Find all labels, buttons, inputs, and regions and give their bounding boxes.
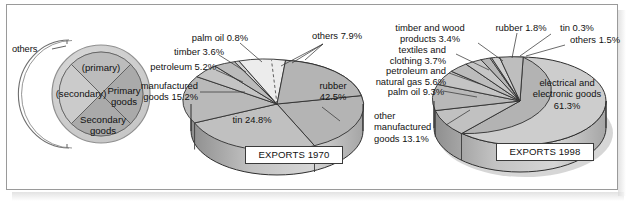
key-primary-outer-label: (primary) xyxy=(66,62,136,73)
label-1970-others: others 7.9% xyxy=(300,30,374,41)
label-1998-electrical: electrical and electronic goods 61.3% xyxy=(522,77,612,111)
caption-exports-1998: EXPORTS 1998 xyxy=(496,143,594,161)
label-1998-rubber: rubber 1.8% xyxy=(487,22,555,33)
exports-figure: others (primary) (secondary) Primary goo… xyxy=(0,0,634,217)
label-1998-timber: timber and wood products 3.4% xyxy=(382,22,478,45)
label-1998-textiles: textiles and clothing 3.7% xyxy=(378,44,446,67)
key-others-label: others xyxy=(12,44,37,55)
label-1998-petroleum: petroleum and natural gas 5.6% xyxy=(364,65,446,88)
label-1998-others: others 1.5% xyxy=(562,34,628,45)
label-1970-tin: tin 24.8% xyxy=(219,114,285,125)
label-1998-palm-oil: palm oil 9.3% xyxy=(372,86,444,97)
key-secondary-inner-label-line1: Secondary xyxy=(70,114,136,125)
label-1970-palm-oil: palm oil 0.8% xyxy=(166,32,248,43)
caption-exports-1970: EXPORTS 1970 xyxy=(245,146,343,164)
label-1970-manufactured: manufactured goods 15.2% xyxy=(120,80,198,103)
key-secondary-inner-label-line2: goods xyxy=(70,125,136,136)
label-1998-tin: tin 0.3% xyxy=(551,22,603,33)
label-1970-rubber: rubber 42.5% xyxy=(304,80,362,103)
label-1970-timber: timber 3.6% xyxy=(152,46,224,57)
label-1998-other-manufactured: other manufactured goods 13.1% xyxy=(374,110,446,144)
label-1970-petroleum: petroleum 5.2% xyxy=(128,61,216,72)
